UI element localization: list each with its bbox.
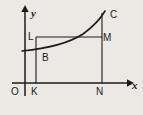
- point-label-B: B: [42, 52, 49, 63]
- point-label-L: L: [28, 31, 34, 42]
- point-label-M: M: [103, 32, 111, 43]
- coordinate-diagram: y x O L M C B K N: [0, 0, 143, 115]
- point-label-K: K: [31, 86, 38, 97]
- math-figure: y x O L M C B K N: [0, 0, 143, 115]
- y-axis-arrow-icon: [21, 5, 28, 12]
- point-label-C: C: [110, 9, 117, 20]
- x-axis-label: x: [131, 79, 138, 91]
- point-label-N: N: [96, 86, 103, 97]
- origin-label: O: [11, 86, 19, 97]
- y-axis-label: y: [29, 7, 36, 19]
